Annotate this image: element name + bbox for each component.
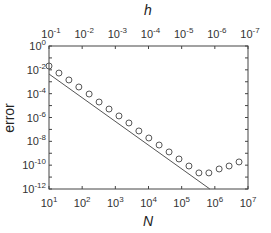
x-axis-title: N xyxy=(143,213,154,229)
data-point xyxy=(76,84,82,90)
x-tick-label: 101 xyxy=(41,195,58,209)
top-tick-label: 10-7 xyxy=(240,26,260,40)
data-point xyxy=(146,135,152,141)
data-point xyxy=(106,106,112,112)
data-point xyxy=(236,159,242,165)
y-tick-label: 10-4 xyxy=(27,86,47,100)
plot-axes xyxy=(49,46,248,189)
top-tick-label: 10-2 xyxy=(74,26,94,40)
x-tick-label: 106 xyxy=(206,195,223,209)
data-point xyxy=(126,120,132,126)
data-point xyxy=(56,70,62,76)
tick-labels: 10110210310410510610710-110-210-310-410-… xyxy=(22,26,260,209)
error-convergence-chart: 10110210310410510610710-110-210-310-410-… xyxy=(0,0,271,233)
y-tick-label: 10-6 xyxy=(27,110,47,124)
y-axis-title: error xyxy=(1,103,17,133)
x-tick-label: 104 xyxy=(140,195,157,209)
data-point xyxy=(226,163,232,169)
top-tick-label: 10-5 xyxy=(174,26,194,40)
top-tick-label: 10-4 xyxy=(141,26,161,40)
plot-frame xyxy=(49,46,248,189)
data-point xyxy=(136,128,142,134)
data-point xyxy=(196,170,202,176)
slope-line xyxy=(49,74,210,189)
x-tick-label: 105 xyxy=(173,195,190,209)
data-point xyxy=(206,170,212,176)
x-tick-label: 103 xyxy=(107,195,124,209)
top-tick-label: 10-6 xyxy=(207,26,227,40)
top-axis-title: h xyxy=(144,2,152,18)
x-tick-label: 102 xyxy=(74,195,91,209)
x-tick-label: 107 xyxy=(240,195,257,209)
data-point xyxy=(186,163,192,169)
y-tick-label: 100 xyxy=(29,38,46,52)
top-tick-label: 10-3 xyxy=(108,26,128,40)
y-tick-label: 10-10 xyxy=(22,157,46,171)
reference-line xyxy=(49,74,210,189)
data-point xyxy=(86,91,92,97)
data-point xyxy=(216,166,222,172)
y-tick-label: 10-2 xyxy=(27,62,47,76)
data-point xyxy=(66,77,72,83)
y-tick-label: 10-12 xyxy=(22,181,46,195)
data-point xyxy=(176,156,182,162)
data-points xyxy=(46,63,242,176)
data-point xyxy=(116,113,122,119)
data-point xyxy=(96,99,102,105)
data-point xyxy=(166,149,172,155)
data-point xyxy=(156,142,162,148)
y-tick-label: 10-8 xyxy=(27,133,47,147)
